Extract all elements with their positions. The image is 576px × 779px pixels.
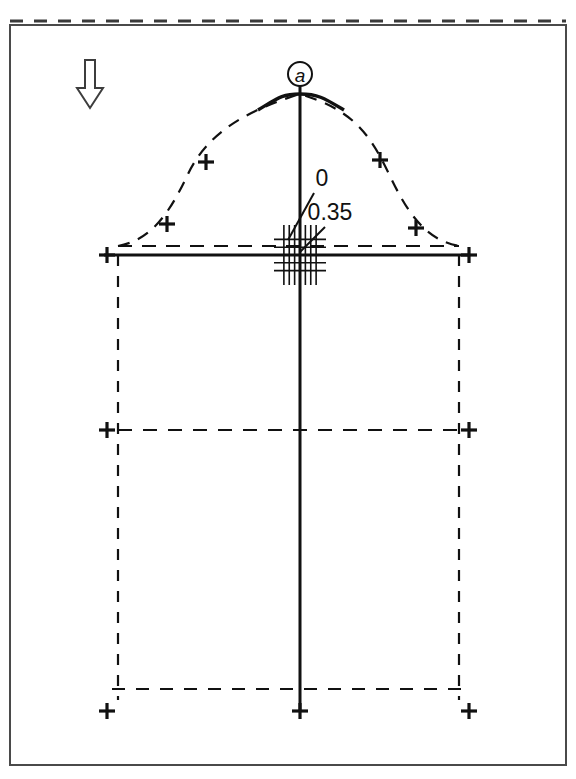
downward-flow-arrow [77, 60, 103, 108]
cross-curve-right-outer [408, 220, 424, 236]
drawing-border [10, 25, 566, 765]
node-label-a: a [288, 62, 312, 86]
cross-bottom-right [461, 703, 477, 719]
value-label-thickness: 0.35 [308, 199, 353, 225]
cross-markers [99, 152, 477, 719]
cross-baseline-right [461, 247, 477, 263]
node-label-text: a [295, 65, 306, 86]
cross-bottom-center [292, 703, 308, 719]
cross-curve-left-inner [198, 154, 214, 170]
cross-mid-left [99, 422, 115, 438]
value-label-zero: 0 [316, 165, 329, 191]
cross-baseline-left [99, 247, 115, 263]
engineering-drawing-figure: a 0 0.35 [0, 0, 576, 779]
cross-mid-right [461, 422, 477, 438]
drawing-canvas: a 0 0.35 [0, 0, 576, 779]
cross-bottom-left [99, 703, 115, 719]
